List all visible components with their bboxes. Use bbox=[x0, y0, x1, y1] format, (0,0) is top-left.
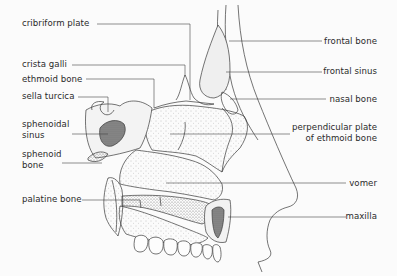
label-sphenoidal-sinus: sphenoidal sinus bbox=[22, 119, 69, 141]
label-cribriform-plate: cribriform plate bbox=[22, 18, 89, 29]
label-sphenoidal-line2: sinus bbox=[22, 130, 69, 141]
label-sphenoidal-line1: sphenoidal bbox=[22, 119, 69, 130]
label-frontal-bone: frontal bone bbox=[324, 36, 377, 47]
label-sphenoid-bone: sphenoid bone bbox=[22, 149, 62, 171]
label-sella-turcica: sella turcica bbox=[22, 91, 74, 102]
label-sphenoid-line2: bone bbox=[22, 160, 62, 171]
leader-crista-galli bbox=[72, 65, 185, 76]
face-profile-outline bbox=[238, 5, 298, 272]
label-vomer: vomer bbox=[349, 178, 377, 189]
label-palatine-bone: palatine bone bbox=[22, 194, 82, 205]
label-maxilla: maxilla bbox=[345, 211, 377, 222]
label-crista-galli: crista galli bbox=[22, 59, 67, 70]
label-nasal-bone: nasal bone bbox=[329, 94, 377, 105]
leader-cribriform-plate bbox=[97, 24, 190, 100]
label-ethmoid-bone: ethmoid bone bbox=[22, 74, 82, 85]
label-perpendicular-line1: perpendicular plate bbox=[292, 122, 377, 133]
label-frontal-sinus: frontal sinus bbox=[323, 66, 377, 77]
label-perpendicular-plate: perpendicular plate of ethmoid bone bbox=[292, 122, 377, 144]
label-perpendicular-line2: of ethmoid bone bbox=[292, 133, 377, 144]
label-sphenoid-line1: sphenoid bbox=[22, 149, 62, 160]
